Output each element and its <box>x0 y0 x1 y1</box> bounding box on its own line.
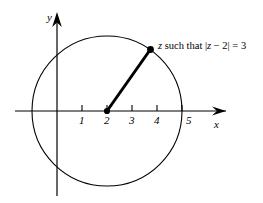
z-annotation: z such that |z − 2| = 3 <box>158 41 246 52</box>
y-axis-label: y <box>47 12 52 23</box>
figure-canvas <box>0 0 263 203</box>
x-axis-label: x <box>214 119 219 130</box>
annotation-value: 3 <box>241 40 246 51</box>
x-tick-label-3: 3 <box>129 115 135 126</box>
radius-vector <box>107 50 150 111</box>
x-tick-label-5: 5 <box>186 115 192 126</box>
z-point-dot <box>147 46 154 53</box>
x-tick-label-2: 2 <box>104 115 110 126</box>
x-tick-label-4: 4 <box>154 115 160 126</box>
complex-plane-figure: 1 2 3 4 5 x y z such that |z − 2| = 3 <box>0 0 263 203</box>
annotation-such-that-text: such that <box>165 40 203 51</box>
x-tick-label-1: 1 <box>79 115 85 126</box>
